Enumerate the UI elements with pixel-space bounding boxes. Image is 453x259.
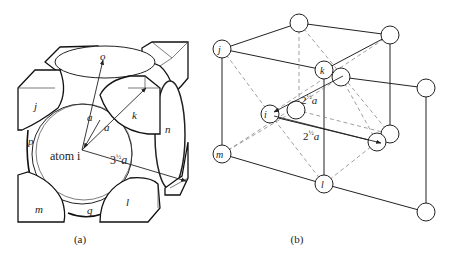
panel-a: o j k n p m q l a a atom i 3½a (a)	[18, 42, 188, 246]
label-sqrt2-a-upper: 2½a	[301, 93, 318, 106]
label-sqrt2-a-lower: 2½a	[303, 129, 320, 142]
panel-b: j k i m l 2½a 2½a (b)	[213, 14, 435, 246]
dashed-edge	[222, 49, 270, 114]
label-l: l	[126, 196, 129, 208]
atom-bottom-right	[417, 203, 435, 221]
label-a-diagonal: a	[104, 121, 110, 133]
dashed-edge	[341, 77, 377, 142]
edge	[299, 23, 390, 35]
label-l: l	[321, 179, 324, 190]
label-atom-i: atom i	[50, 149, 81, 163]
atom-j	[213, 40, 231, 58]
label-i: i	[264, 109, 267, 120]
edge	[324, 184, 426, 212]
edge	[324, 35, 390, 70]
dashed-edge	[222, 77, 341, 154]
label-n: n	[165, 123, 171, 135]
label-q: q	[87, 204, 93, 216]
edge	[222, 23, 299, 49]
caption-a: (a)	[74, 233, 87, 246]
contact-arc-q	[68, 213, 102, 217]
label-m: m	[216, 149, 223, 160]
caption-b: (b)	[291, 233, 304, 246]
atom-right-middle	[417, 79, 435, 97]
label-k: k	[320, 65, 325, 76]
dashed-edge	[270, 114, 324, 184]
atom-top-back	[290, 14, 308, 32]
edge	[222, 154, 324, 184]
dashed-edge	[324, 142, 377, 184]
label-p: p	[27, 135, 34, 147]
edge	[341, 77, 426, 88]
label-o: o	[100, 50, 106, 62]
edge	[222, 49, 324, 70]
atom-l	[315, 175, 333, 193]
label-a-vertical: a	[87, 111, 93, 123]
dashed-edge	[222, 110, 296, 154]
crystal-structure-figure: o j k n p m q l a a atom i 3½a (a)	[0, 0, 453, 259]
label-m: m	[35, 203, 43, 215]
atom-top-right-back	[381, 26, 399, 44]
